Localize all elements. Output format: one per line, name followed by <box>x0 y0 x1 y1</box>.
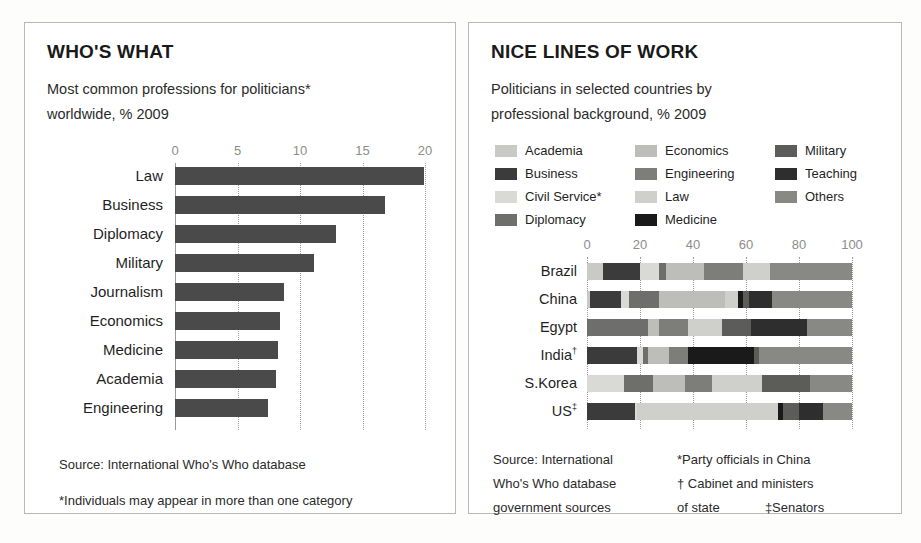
legend-item: Law <box>635 185 734 208</box>
x-tick-label-right: 0 <box>583 237 590 252</box>
stacked-bar-chart-countries: 020406080100 BrazilChinaEgyptIndia†S.Kor… <box>495 237 887 437</box>
stacked-bar-row: China <box>587 287 852 311</box>
stack-segment <box>725 291 738 308</box>
stack-segment <box>590 291 622 308</box>
stack-segment <box>629 291 658 308</box>
stack-segment <box>587 263 603 280</box>
source-right-line3: government sources <box>493 496 653 520</box>
note-right-line3a: of state <box>677 500 720 515</box>
stack-segment <box>810 375 852 392</box>
bar-row: Medicine <box>175 339 425 361</box>
stacked-bar-row: India† <box>587 343 852 367</box>
legend-label: Civil Service* <box>525 189 602 204</box>
stack-segment <box>659 263 667 280</box>
bar-row: Economics <box>175 310 425 332</box>
stack-segment <box>640 263 659 280</box>
bar-fill <box>175 312 280 330</box>
bar-chart-professions: 05101520 LawBusinessDiplomacyMilitaryJou… <box>47 143 435 423</box>
legend-swatch <box>635 191 657 203</box>
x-axis-right: 020406080100 <box>495 237 887 257</box>
gridline <box>425 163 427 430</box>
bar-fill <box>175 370 276 388</box>
stack-segment <box>712 375 762 392</box>
bar-row: Law <box>175 165 425 187</box>
legend-item: Military <box>775 139 857 162</box>
bar-fill <box>175 341 278 359</box>
stack-segment <box>688 319 722 336</box>
bar-category-label: Economics <box>90 310 175 332</box>
x-tick-label-right: 40 <box>686 237 700 252</box>
subtitle-right: Politicians in selected countries by pro… <box>491 77 887 127</box>
stack-track <box>587 347 852 364</box>
legend-swatch <box>495 168 517 180</box>
stacked-bar-row: Brazil <box>587 259 852 283</box>
bar-row: Academia <box>175 368 425 390</box>
legend-label: Engineering <box>665 166 734 181</box>
legend-label: Economics <box>665 143 729 158</box>
legend-item: Academia <box>495 139 602 162</box>
stack-segment <box>759 347 852 364</box>
subtitle-left-line2: worldwide, % 2009 <box>47 102 437 127</box>
bar-row: Journalism <box>175 281 425 303</box>
stack-segment <box>799 403 823 420</box>
stack-segment <box>743 263 770 280</box>
legend-item: Medicine <box>635 208 734 231</box>
bar-category-label: Diplomacy <box>93 223 175 245</box>
stack-track <box>587 375 852 392</box>
stack-segment <box>722 319 751 336</box>
country-label: Egypt <box>540 315 587 339</box>
bar-category-label: Academia <box>96 368 175 390</box>
stack-segment <box>637 403 777 420</box>
subtitle-right-line1: Politicians in selected countries by <box>491 77 887 102</box>
legend-label: Law <box>665 189 689 204</box>
x-tick-label-left: 20 <box>418 143 432 158</box>
note-right-line3: of state ‡Senators <box>677 496 892 520</box>
legend-swatch <box>775 145 797 157</box>
stack-segment <box>783 403 799 420</box>
stack-segment <box>669 347 688 364</box>
bar-row: Business <box>175 194 425 216</box>
legend-swatch <box>495 145 517 157</box>
subtitle-right-line2: professional background, % 2009 <box>491 102 887 127</box>
country-label: China <box>539 287 587 311</box>
stack-segment <box>587 403 635 420</box>
page-title-right: NICE LINES OF WORK <box>491 41 698 63</box>
stacked-bar-row: US‡ <box>587 399 852 423</box>
legend-label: Business <box>525 166 578 181</box>
x-tick-label-left: 15 <box>355 143 369 158</box>
note-right-line3b: ‡Senators <box>765 500 824 515</box>
legend-label: Military <box>805 143 846 158</box>
stack-segment <box>603 263 640 280</box>
subtitle-left: Most common professions for politicians*… <box>47 77 437 127</box>
legend-column: MilitaryTeachingOthers <box>775 139 857 208</box>
x-tick-label-right: 100 <box>841 237 863 252</box>
stack-segment <box>807 319 852 336</box>
country-label: US‡ <box>552 399 587 423</box>
page-title-left: WHO'S WHAT <box>47 41 173 63</box>
stack-segment <box>688 347 754 364</box>
panel-whos-what: WHO'S WHAT Most common professions for p… <box>24 22 456 514</box>
country-label: S.Korea <box>525 371 587 395</box>
stack-segment <box>823 403 852 420</box>
bar-category-label: Medicine <box>103 339 175 361</box>
panel-nice-lines-of-work: NICE LINES OF WORK Politicians in select… <box>468 22 902 514</box>
bar-fill <box>175 399 268 417</box>
stack-segment <box>653 375 685 392</box>
bar-fill <box>175 254 314 272</box>
bar-fill <box>175 167 424 185</box>
legend-label: Medicine <box>665 212 717 227</box>
legend-swatch <box>775 191 797 203</box>
footnote-left: *Individuals may appear in more than one… <box>59 489 352 513</box>
stack-segment <box>587 375 624 392</box>
source-right-line2: Who's Who database <box>493 472 653 496</box>
legend-swatch <box>495 214 517 226</box>
stack-track <box>587 263 852 280</box>
stack-segment <box>659 291 725 308</box>
bar-row: Engineering <box>175 397 425 419</box>
legend-item: Engineering <box>635 162 734 185</box>
legend-item: Civil Service* <box>495 185 602 208</box>
stack-segment <box>685 375 712 392</box>
x-axis-left: 05101520 <box>47 143 435 163</box>
stack-segment <box>749 291 773 308</box>
stack-segment <box>772 291 852 308</box>
